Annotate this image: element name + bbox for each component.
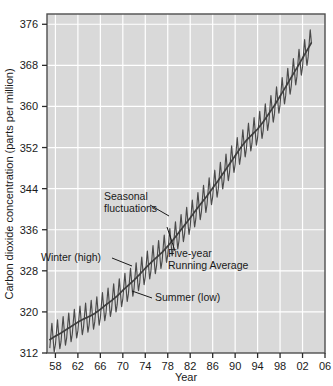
y-tick-label: 352 — [20, 142, 38, 154]
x-tick-label: 94 — [251, 360, 263, 372]
x-tick-label: 02 — [296, 360, 308, 372]
annotation-text: Five-year — [168, 247, 212, 259]
co2-keeling-curve-figure: 312320328336344352360368376 586266707478… — [0, 0, 333, 386]
x-tick-label: 06 — [319, 360, 331, 372]
x-tick-label: 62 — [72, 360, 84, 372]
annotation-text: Winter (high) — [41, 251, 101, 263]
y-axis-title: Carbon dioxide concentration (parts per … — [3, 68, 15, 299]
annotation-text: Summer (low) — [155, 291, 220, 303]
y-tick-label: 360 — [20, 100, 38, 112]
x-axis-ticks — [55, 353, 325, 358]
x-tick-label: 78 — [162, 360, 174, 372]
x-tick-label: 86 — [207, 360, 219, 372]
y-tick-label: 328 — [20, 265, 38, 277]
x-tick-label: 58 — [49, 360, 61, 372]
chart-canvas: 312320328336344352360368376 586266707478… — [0, 0, 333, 386]
y-tick-label: 344 — [20, 183, 38, 195]
x-tick-label: 66 — [94, 360, 106, 372]
y-tick-label: 320 — [20, 306, 38, 318]
y-tick-label: 336 — [20, 224, 38, 236]
x-tick-label: 98 — [274, 360, 286, 372]
x-tick-label: 70 — [117, 360, 129, 372]
y-tick-label: 376 — [20, 18, 38, 30]
annotation-text: Running Average — [168, 259, 249, 271]
y-axis-ticks — [42, 24, 47, 353]
y-tick-label: 312 — [20, 347, 38, 359]
y-axis-tick-labels: 312320328336344352360368376 — [20, 18, 38, 359]
y-tick-label: 368 — [20, 59, 38, 71]
x-tick-label: 74 — [139, 360, 151, 372]
x-tick-label: 90 — [229, 360, 241, 372]
annotation-text: fluctuations — [104, 202, 157, 214]
annotation-text: Seasonal — [104, 190, 148, 202]
x-axis-title: Year — [175, 371, 198, 383]
